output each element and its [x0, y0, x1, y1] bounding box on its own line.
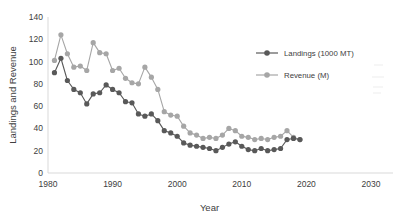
data-point — [175, 134, 180, 139]
data-point — [168, 112, 173, 117]
x-axis-tick-label: 2020 — [297, 179, 316, 189]
legend-marker-dot — [264, 72, 270, 78]
data-point — [116, 90, 121, 95]
series-revenue — [52, 32, 303, 142]
data-point — [155, 118, 160, 123]
legend-label[interactable]: Landings (1000 MT) — [284, 49, 354, 58]
y-axis-tick-label: 60 — [34, 101, 44, 111]
data-point — [175, 114, 180, 119]
data-point — [78, 90, 83, 95]
data-point — [284, 137, 289, 142]
data-point — [123, 99, 128, 104]
data-point — [129, 100, 134, 105]
data-point — [239, 134, 244, 139]
cropped-title-fragment: •• — [183, 0, 213, 1]
data-point — [104, 51, 109, 56]
data-point — [181, 140, 186, 145]
data-point — [142, 65, 147, 70]
data-point — [259, 146, 264, 151]
data-point — [291, 136, 296, 141]
data-point — [116, 66, 121, 71]
data-point — [278, 146, 283, 151]
data-point — [52, 58, 57, 63]
data-point — [136, 81, 141, 86]
data-point — [188, 143, 193, 148]
data-point — [129, 80, 134, 85]
data-point — [207, 146, 212, 151]
data-point — [84, 101, 89, 106]
data-point — [226, 141, 231, 146]
data-point — [188, 130, 193, 135]
data-point — [136, 111, 141, 116]
x-axis-tick-label: 1990 — [103, 179, 122, 189]
data-point — [91, 40, 96, 45]
scan-artifact-1 — [374, 64, 383, 66]
data-point — [200, 145, 205, 150]
data-point — [162, 128, 167, 133]
data-point — [123, 76, 128, 81]
data-point — [155, 87, 160, 92]
y-axis-title: Landings and Revenue — [7, 46, 18, 144]
data-point — [213, 148, 218, 153]
y-axis-tick-label: 0 — [38, 168, 43, 178]
y-axis-tick-label: 100 — [29, 57, 43, 67]
data-point — [142, 114, 147, 119]
data-point — [149, 75, 154, 80]
data-point — [65, 78, 70, 83]
data-point — [272, 147, 277, 152]
data-point — [239, 144, 244, 149]
data-point — [58, 32, 63, 37]
data-point — [233, 139, 238, 144]
data-point — [97, 50, 102, 55]
data-point — [71, 65, 76, 70]
data-point — [200, 136, 205, 141]
y-axis-tick-label: 140 — [29, 12, 43, 22]
data-point — [220, 133, 225, 138]
scan-artifact-3 — [373, 86, 383, 88]
series-line — [54, 35, 299, 140]
data-point — [246, 135, 251, 140]
data-point — [78, 63, 83, 68]
legend-marker-dot — [264, 50, 270, 56]
data-point — [52, 70, 57, 75]
y-axis-tick-label: 40 — [34, 123, 44, 133]
data-point — [272, 135, 277, 140]
x-axis-tick-label: 1980 — [39, 179, 58, 189]
data-point — [252, 148, 257, 153]
x-axis-tick-label: 2010 — [232, 179, 251, 189]
x-axis-tick-label: 2030 — [362, 179, 381, 189]
y-axis-tick-label: 120 — [29, 34, 43, 44]
data-point — [213, 136, 218, 141]
x-axis-tick-label: 2000 — [168, 179, 187, 189]
data-point — [162, 109, 167, 114]
data-point — [265, 137, 270, 142]
data-point — [97, 90, 102, 95]
data-point — [194, 144, 199, 149]
data-point — [91, 91, 96, 96]
y-axis-tick-label: 20 — [34, 146, 44, 156]
data-point — [104, 82, 109, 87]
data-point — [297, 137, 302, 142]
data-point — [71, 87, 76, 92]
data-point — [84, 68, 89, 73]
data-point — [265, 148, 270, 153]
line-chart: 0204060801001201401980199020002010202020… — [0, 0, 401, 220]
data-point — [194, 133, 199, 138]
data-point — [65, 51, 70, 56]
chart-container: •• 0204060801001201401980199020002010202… — [0, 0, 401, 220]
x-axis-title: Year — [200, 202, 219, 213]
data-point — [278, 134, 283, 139]
data-point — [207, 135, 212, 140]
y-axis-tick-label: 80 — [34, 79, 44, 89]
data-point — [149, 111, 154, 116]
legend-label[interactable]: Revenue (M) — [284, 71, 329, 80]
data-point — [284, 128, 289, 133]
data-point — [220, 145, 225, 150]
data-point — [259, 136, 264, 141]
data-point — [252, 137, 257, 142]
data-point — [110, 87, 115, 92]
scan-artifact-2 — [372, 76, 384, 78]
data-point — [168, 130, 173, 135]
data-point — [181, 124, 186, 129]
data-point — [226, 126, 231, 131]
